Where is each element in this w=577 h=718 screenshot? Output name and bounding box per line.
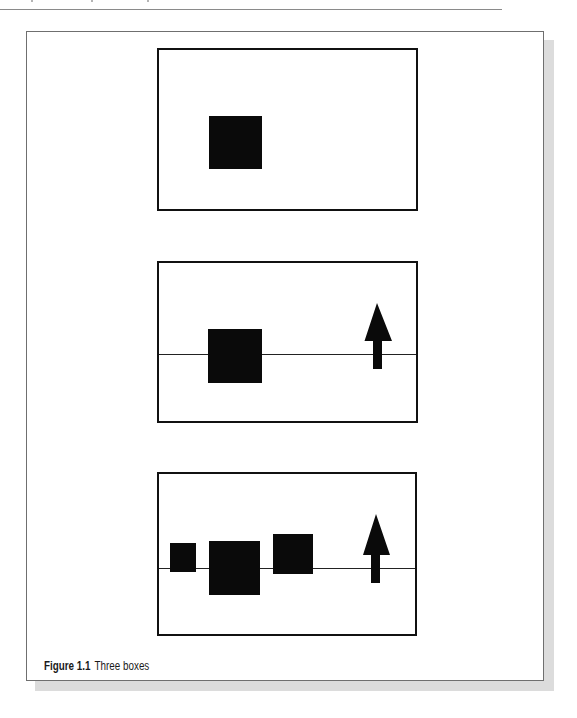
square-large bbox=[209, 116, 262, 169]
up-arrow-icon bbox=[358, 511, 394, 585]
square-small bbox=[170, 543, 196, 572]
figure-caption: Figure 1.1Three boxes bbox=[44, 659, 149, 673]
square-large bbox=[209, 541, 260, 595]
header-glyph-fragment bbox=[147, 0, 149, 2]
square-large bbox=[208, 329, 262, 383]
panel-1 bbox=[157, 48, 418, 211]
header-glyph-fragment bbox=[91, 0, 93, 2]
header-rule bbox=[0, 9, 502, 10]
square-medium bbox=[273, 534, 313, 574]
header-glyph-fragment bbox=[31, 0, 33, 2]
cropped-header-text bbox=[0, 0, 577, 4]
caption-label: Figure 1.1 bbox=[44, 659, 90, 673]
up-arrow-icon bbox=[360, 300, 396, 372]
caption-text: Three boxes bbox=[95, 659, 150, 673]
